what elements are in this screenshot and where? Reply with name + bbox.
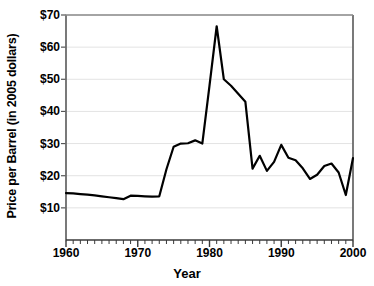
x-tick-label: 2000 [340,246,367,260]
x-tick-label: 1990 [268,246,295,260]
x-tick-label: 1970 [124,246,151,260]
price-line [66,26,353,199]
x-axis-title: Year [0,266,374,281]
x-tick-label: 1960 [53,246,80,260]
x-axis-tick-labels: 19601970198019902000 [0,246,374,266]
oil-price-chart: Price per Barrel (in 2005 dollars) $10$2… [0,0,374,286]
x-tick-label: 1980 [196,246,223,260]
plot-area [0,0,374,286]
